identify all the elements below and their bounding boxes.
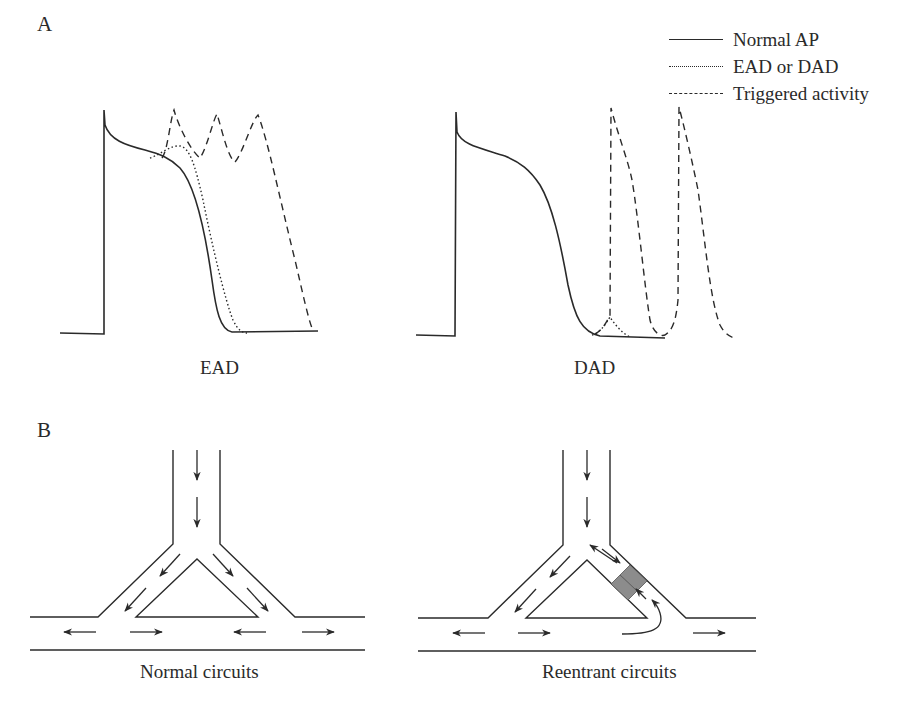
arrow-down-left-icon (515, 589, 536, 612)
figure-canvas (0, 0, 914, 712)
ead-trace-group (60, 110, 318, 334)
normal-stem-left-wall (30, 450, 173, 617)
dad-dotted-trace (592, 317, 630, 337)
reentrant-circuit-diagram (418, 450, 756, 651)
reentry-curved-arrow-icon (622, 600, 661, 634)
ead-triggered-trace (162, 110, 312, 328)
reentrant-stem-left-wall (418, 450, 563, 618)
ead-dotted-trace (150, 146, 247, 333)
normal-inner-triangle (136, 559, 258, 617)
arrow-down-right-icon (247, 588, 268, 611)
reentrant-arrows (453, 450, 725, 634)
normal-stem-right-wall (220, 450, 365, 617)
arrow-down-right-icon (213, 554, 233, 576)
dad-trace-group (416, 107, 736, 338)
arrow-up-left-icon (636, 589, 646, 599)
dad-triggered-trace (595, 107, 736, 338)
arrow-down-left-icon (125, 588, 146, 611)
arrow-down-left-icon (160, 554, 180, 576)
arrow-down-left-icon (550, 556, 570, 577)
normal-circuit-diagram (30, 450, 365, 650)
dad-normal-ap-trace (416, 112, 665, 338)
normal-arrows (64, 450, 334, 632)
